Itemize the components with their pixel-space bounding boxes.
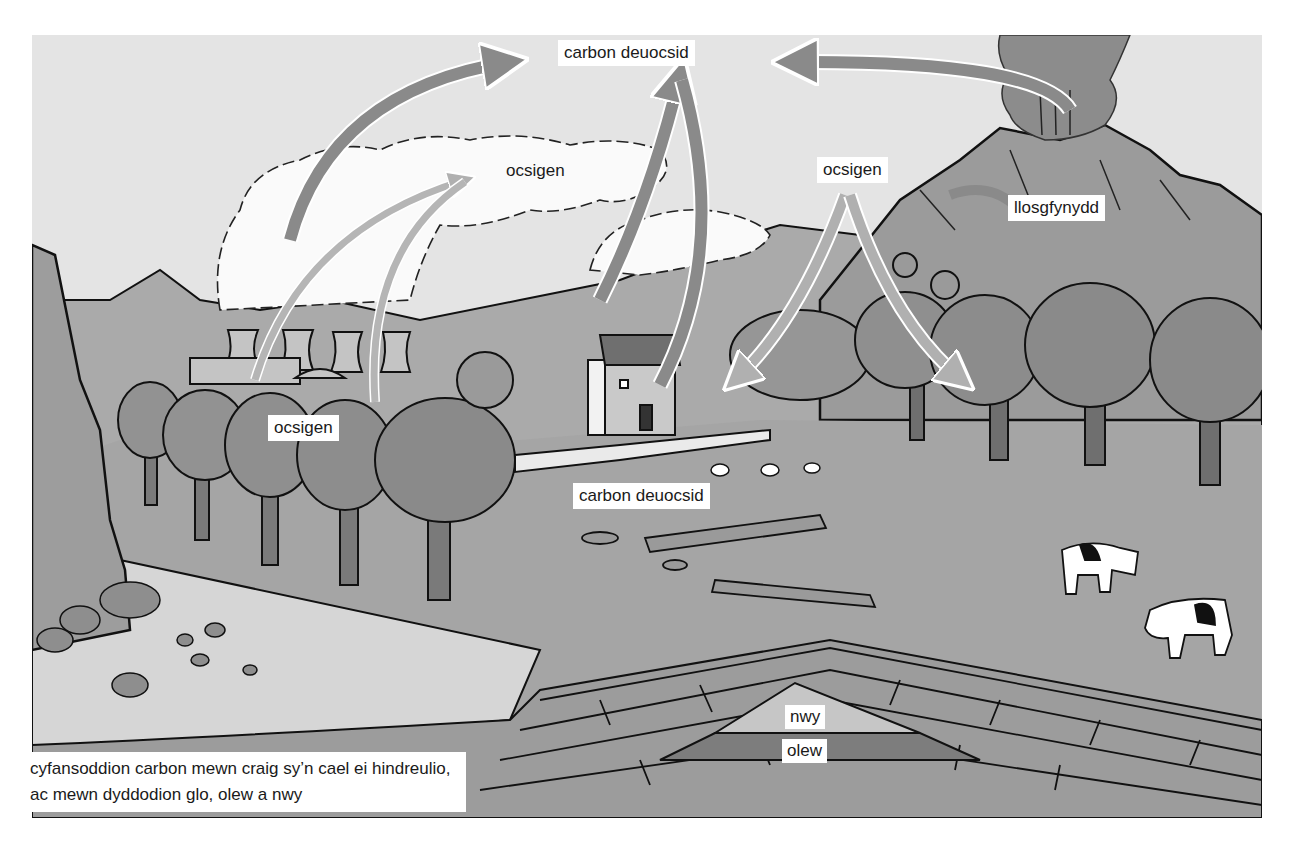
label-oxygen-trees-right: ocsigen <box>817 157 888 183</box>
label-volcano: llosgfynydd <box>1008 195 1105 221</box>
label-rock-carbon-compounds: cyfansoddion carbon mewn craig sy’n cael… <box>22 752 466 812</box>
label-carbon-dioxide-top: carbon deuocsid <box>558 40 695 66</box>
label-gas: nwy <box>785 705 825 729</box>
label-oil: olew <box>782 739 827 763</box>
label-carbon-dioxide-ground: carbon deuocsid <box>573 483 710 509</box>
label-oxygen-trees-left: ocsigen <box>268 415 339 441</box>
carbon-cycle-illustration <box>0 0 1292 848</box>
label-oxygen-cloud: ocsigen <box>500 158 571 184</box>
